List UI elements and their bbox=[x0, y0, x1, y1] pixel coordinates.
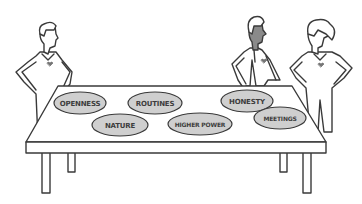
table-meeting-illustration: OPENNESS ROUTINES HONESTY NATURE HIGHER … bbox=[0, 0, 362, 204]
oval-label: MEETINGS bbox=[263, 115, 296, 122]
oval-routines[interactable]: ROUTINES bbox=[128, 92, 182, 114]
illustration-scene: OPENNESS ROUTINES HONESTY NATURE HIGHER … bbox=[0, 0, 362, 204]
table-legs bbox=[42, 150, 311, 193]
oval-label: OPENNESS bbox=[60, 100, 101, 108]
middle-person-figure bbox=[232, 17, 280, 92]
oval-label: HONESTY bbox=[229, 98, 266, 106]
oval-label: HIGHER POWER bbox=[175, 121, 226, 128]
oval-meetings[interactable]: MEETINGS bbox=[254, 107, 306, 129]
oval-higher-power[interactable]: HIGHER POWER bbox=[168, 113, 232, 135]
oval-nature[interactable]: NATURE bbox=[92, 114, 148, 136]
oval-openness[interactable]: OPENNESS bbox=[54, 92, 106, 114]
oval-label: NATURE bbox=[105, 122, 136, 130]
oval-label: ROUTINES bbox=[136, 100, 175, 108]
